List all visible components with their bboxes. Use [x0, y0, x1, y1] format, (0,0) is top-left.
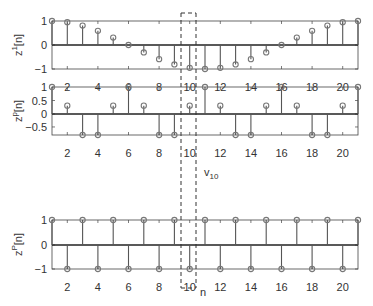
y-axis-label: zP[n]	[10, 233, 24, 256]
x-tick-label: 12	[214, 147, 226, 159]
y-axis-label: zp[n]	[10, 100, 24, 122]
vector-label: v10	[204, 166, 219, 181]
y-tick-label: 1	[41, 15, 47, 27]
y-tick-label: 0.5	[32, 95, 47, 107]
y-tick-label: −1	[34, 63, 47, 75]
y-tick-label: 0	[41, 39, 47, 51]
x-tick-label: 14	[245, 147, 257, 159]
y-tick-label: 0	[41, 108, 47, 120]
x-tick-label: 18	[306, 281, 318, 293]
x-tick-label: 16	[275, 281, 287, 293]
stem-panel-1: 246810121416182010−1z1[n]	[10, 15, 361, 93]
stem-panel-3: 246810121416182010−1zP[n]	[10, 214, 361, 293]
x-tick-label: 20	[337, 281, 349, 293]
y-tick-label: 1	[41, 81, 47, 93]
y-tick-label: −1	[34, 263, 47, 275]
x-tick-label: 8	[156, 281, 162, 293]
y-tick-label: −0.5	[25, 121, 47, 133]
x-tick-label: 2	[64, 281, 70, 293]
x-tick-label: 4	[95, 147, 101, 159]
x-tick-label: 10	[184, 147, 196, 159]
y-tick-label: 0	[41, 239, 47, 251]
x-tick-label: 8	[156, 147, 162, 159]
stem-chart-figure: 246810121416182010−1z1[n]246810121416182…	[0, 0, 373, 306]
x-tick-label: 16	[275, 147, 287, 159]
x-tick-label: 6	[125, 147, 131, 159]
x-tick-label: 6	[125, 281, 131, 293]
x-tick-label: 2	[64, 147, 70, 159]
x-tick-label: 18	[306, 147, 318, 159]
x-axis-label: n	[200, 286, 206, 298]
x-tick-label: 12	[214, 281, 226, 293]
y-tick-label: 1	[41, 214, 47, 226]
x-tick-label: 20	[337, 147, 349, 159]
x-tick-label: 14	[245, 281, 257, 293]
y-axis-label: z1[n]	[10, 34, 24, 56]
x-tick-label: 4	[95, 281, 101, 293]
x-tick-label: 10	[184, 281, 196, 293]
